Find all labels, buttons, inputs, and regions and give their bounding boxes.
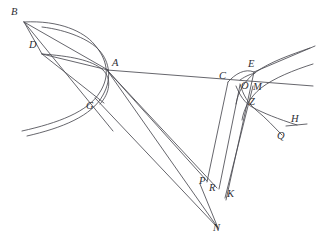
segment-A-to-R	[107, 70, 217, 188]
point-label-H: H	[291, 114, 299, 125]
point-label-A: A	[112, 58, 118, 69]
point-label-G: G	[86, 101, 94, 112]
point-label-B: B	[11, 7, 17, 18]
segment-tangent-at-E	[254, 46, 315, 72]
point-label-K: K	[227, 189, 234, 200]
segments-group	[24, 22, 315, 228]
figure-canvas	[0, 0, 316, 248]
segment-O-to-R	[219, 85, 240, 189]
segment-C-to-P	[207, 82, 228, 182]
point-label-P: P	[199, 176, 205, 187]
segment-A-to-C-E	[107, 70, 313, 86]
point-label-E: E	[248, 59, 254, 70]
geometry-figure: BDAGECOMZHQPRKN	[0, 0, 316, 248]
point-label-Q: Q	[277, 131, 285, 142]
segment-B-to-G	[24, 22, 113, 131]
curve-hyperbola-inner-left	[27, 27, 109, 136]
point-label-O: O	[241, 81, 249, 92]
segment-G-to-N	[95, 98, 218, 228]
curves-group	[22, 22, 313, 136]
point-label-N: N	[213, 223, 220, 234]
point-label-M: M	[253, 82, 262, 93]
point-label-Z: Z	[249, 97, 255, 108]
segment-A-to-N	[107, 70, 218, 228]
point-label-C: C	[219, 71, 226, 82]
point-label-R: R	[209, 183, 215, 194]
point-label-D: D	[29, 40, 37, 51]
